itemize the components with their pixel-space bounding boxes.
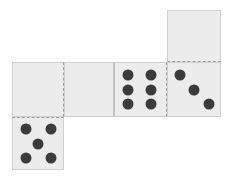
pip-icon: [20, 124, 31, 135]
pip-icon: [122, 69, 133, 80]
pip-icon: [145, 84, 156, 95]
domino-cell-six: [114, 62, 167, 117]
pip-icon: [203, 99, 214, 110]
domino-cell-blank-left: [12, 62, 64, 117]
domino-board: [0, 0, 233, 182]
pip-icon: [122, 84, 133, 95]
pip-icon: [20, 152, 31, 163]
domino-cell-blank-second: [64, 62, 114, 117]
pip-icon: [33, 138, 44, 149]
pip-icon: [145, 69, 156, 80]
domino-cell-five: [12, 117, 64, 170]
pip-icon: [45, 124, 56, 135]
pip-icon: [45, 152, 56, 163]
pip-icon: [145, 99, 156, 110]
pip-icon: [122, 99, 133, 110]
domino-cell-blank-top-right: [167, 10, 221, 62]
pip-icon: [175, 69, 186, 80]
pip-icon: [189, 84, 200, 95]
domino-cell-three: [167, 62, 221, 117]
